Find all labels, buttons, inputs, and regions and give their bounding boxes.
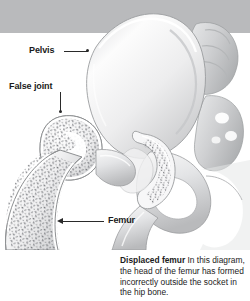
label-pelvis: Pelvis: [29, 46, 54, 55]
label-femur: Femur: [108, 216, 135, 225]
figure-caption: Displaced femur In this diagram, the hea…: [120, 255, 246, 298]
label-false-joint: False joint: [9, 82, 52, 91]
leader-line-pelvis: [64, 51, 88, 52]
leader-dot-pelvis: [86, 49, 89, 52]
figure-page: Pelvis False joint Femur Displaced femur…: [0, 0, 250, 301]
hip-anatomy-illustration: [0, 0, 250, 250]
caption-lead: Displaced femur: [120, 255, 185, 265]
leader-line-femur: [62, 221, 104, 222]
leader-dot-false-joint: [59, 110, 62, 113]
leader-line-false-joint: [60, 92, 61, 112]
leader-arrowhead-femur: [57, 218, 63, 224]
